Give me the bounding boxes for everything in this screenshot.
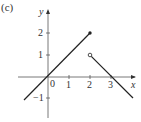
filled-dot-icon [88,31,91,34]
x-axis-label: x [131,80,135,90]
tick-label-0: 0 [50,79,55,89]
segment-1 [24,33,90,100]
tick-label-ym1: −1 [33,93,44,103]
tick-label-x1: 1 [66,80,71,90]
tick-label-y1: 1 [38,50,43,60]
tick-label-x2: 2 [87,80,92,90]
tick-label-x3: 3 [108,80,113,90]
open-circle-icon [88,53,92,57]
y-axis-label: y [39,7,43,17]
tick-label-y2: 2 [38,28,43,38]
y-axis-arrow-icon [46,9,50,14]
plot-area [0,0,141,122]
